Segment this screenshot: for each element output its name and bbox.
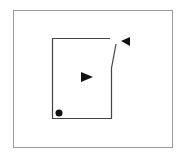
dot-marker [56, 110, 63, 117]
diagram-canvas [0, 0, 183, 162]
triangle-right-marker [81, 72, 93, 82]
triangle-left-marker [121, 37, 130, 46]
outer-frame [14, 11, 173, 148]
